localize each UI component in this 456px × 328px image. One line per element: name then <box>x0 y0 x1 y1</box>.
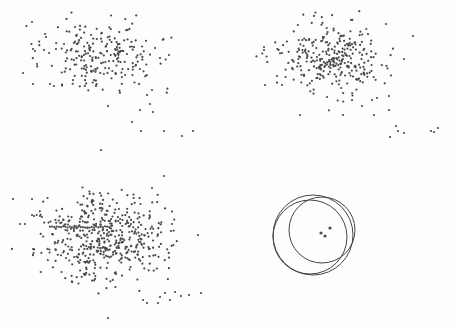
data-point <box>31 198 33 200</box>
data-point <box>112 279 114 281</box>
data-point <box>315 47 317 49</box>
data-point <box>92 254 94 256</box>
data-point <box>98 230 100 232</box>
data-point <box>107 105 109 107</box>
data-point <box>344 49 346 51</box>
data-point <box>358 10 360 12</box>
data-point <box>296 66 298 68</box>
data-point <box>123 239 125 241</box>
data-point <box>126 53 128 55</box>
data-point <box>104 220 106 222</box>
data-point <box>312 45 314 47</box>
data-point <box>167 278 169 280</box>
data-point <box>147 232 149 234</box>
data-point <box>52 266 54 268</box>
data-point <box>84 79 86 81</box>
data-point <box>70 238 72 240</box>
data-point <box>97 238 99 240</box>
data-point <box>160 63 162 65</box>
data-point <box>84 85 86 87</box>
data-point <box>92 193 94 195</box>
data-point <box>143 267 145 269</box>
data-point <box>119 218 121 220</box>
data-point <box>106 248 108 250</box>
data-point <box>85 273 87 275</box>
data-point <box>354 65 356 67</box>
data-point <box>159 296 161 298</box>
data-point <box>115 220 117 222</box>
data-point <box>106 267 108 269</box>
data-point <box>117 50 119 52</box>
data-point <box>117 220 119 222</box>
data-point <box>126 208 128 210</box>
data-point <box>303 38 305 40</box>
data-point <box>335 76 337 78</box>
data-point <box>80 226 82 228</box>
data-point <box>133 46 135 48</box>
data-point <box>321 22 323 24</box>
data-point <box>86 226 88 228</box>
data-point <box>67 223 69 225</box>
data-point <box>93 246 95 248</box>
data-point <box>152 247 154 249</box>
data-point <box>261 52 263 54</box>
data-point <box>121 83 123 85</box>
data-point <box>336 58 338 60</box>
data-point <box>371 64 373 66</box>
data-point <box>106 233 108 235</box>
data-point <box>349 75 351 77</box>
data-point <box>328 66 330 68</box>
data-point <box>111 230 113 232</box>
data-point <box>341 54 343 56</box>
data-point <box>323 70 325 72</box>
data-point <box>77 256 79 258</box>
data-point <box>39 215 41 217</box>
data-point <box>119 47 121 49</box>
data-point <box>347 61 349 63</box>
data-point <box>359 31 361 33</box>
data-point <box>33 215 35 217</box>
data-point <box>143 214 145 216</box>
data-point <box>128 258 130 260</box>
data-point <box>335 63 337 65</box>
data-point <box>366 76 368 78</box>
data-point <box>341 71 343 73</box>
data-point <box>96 28 98 30</box>
data-point <box>129 46 131 48</box>
data-point <box>148 269 150 271</box>
data-point <box>90 34 92 36</box>
data-point <box>340 87 342 89</box>
data-point <box>329 71 331 73</box>
panel-top-left-scatter <box>22 12 194 178</box>
data-point <box>309 82 311 84</box>
data-point <box>91 57 93 59</box>
data-point <box>333 50 335 52</box>
data-point <box>138 235 140 237</box>
data-point <box>49 251 51 253</box>
data-point <box>40 252 42 254</box>
data-point <box>61 48 63 50</box>
data-point <box>359 67 361 69</box>
data-point <box>105 45 107 47</box>
data-point <box>111 215 113 217</box>
data-point <box>55 48 57 50</box>
data-point <box>157 233 159 235</box>
data-point <box>152 239 154 241</box>
data-point <box>115 253 117 255</box>
data-point <box>36 214 38 216</box>
data-point <box>128 239 130 241</box>
data-point <box>170 230 172 232</box>
data-point <box>109 39 111 41</box>
data-point <box>313 15 315 17</box>
data-point <box>149 103 151 105</box>
data-point <box>338 83 340 85</box>
data-point <box>339 63 341 65</box>
data-point <box>138 83 140 85</box>
data-point <box>105 255 107 257</box>
data-point <box>361 34 363 36</box>
data-point <box>281 52 283 54</box>
data-point <box>154 254 156 256</box>
data-point <box>299 43 301 45</box>
data-point <box>107 192 109 194</box>
data-point <box>109 245 111 247</box>
